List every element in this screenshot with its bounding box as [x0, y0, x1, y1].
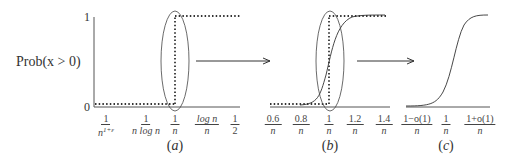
panel-b-step-function	[270, 16, 388, 104]
caption-b: (b)	[322, 138, 338, 154]
panel-b-sigmoid-curve	[300, 15, 385, 105]
x-tick-b-4: 1.2 n	[347, 113, 364, 136]
caption-a: (a)	[167, 138, 183, 154]
y-tick-0: 0	[84, 101, 90, 113]
x-tick-c-1: 1−o(1) n	[401, 113, 432, 136]
x-tick-b-3: 1 n	[325, 113, 334, 136]
x-tick-a-1: 1 n1+ε	[98, 113, 114, 138]
y-tick-1: 1	[84, 11, 90, 23]
x-tick-c-3: 1+o(1) n	[464, 113, 495, 136]
x-tick-a-3: 1 n	[171, 113, 180, 136]
panel-b-ellipse	[316, 11, 344, 111]
panel-a-step-function	[95, 16, 240, 104]
x-tick-a-5: 1 2	[231, 113, 240, 136]
x-tick-b-1: 0.6 n	[265, 113, 282, 136]
y-axis-label: Prob(x > 0)	[16, 55, 81, 69]
panel-a-axes	[94, 17, 240, 107]
x-tick-b-2: 0.8 n	[293, 113, 310, 136]
x-tick-b-5: 1.4 n	[376, 113, 393, 136]
x-tick-a-4: log n n	[195, 113, 219, 136]
caption-c: (c)	[438, 138, 454, 154]
panel-c-sigmoid-curve	[406, 15, 488, 106]
x-tick-a-2: 1 n log n	[132, 113, 160, 136]
x-tick-c-2: 1 n	[442, 113, 451, 136]
